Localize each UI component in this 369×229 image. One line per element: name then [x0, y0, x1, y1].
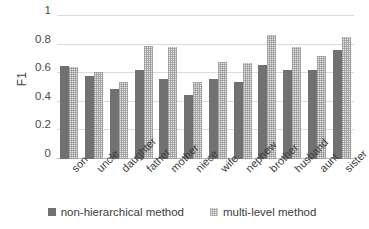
bar-group	[107, 16, 132, 159]
bar-group	[255, 16, 280, 159]
x-axis-label-cell: brother	[255, 160, 280, 205]
bar	[119, 82, 128, 159]
bar	[218, 62, 227, 159]
bar-group	[181, 16, 206, 159]
y-axis-tick-label: 0.4	[17, 90, 51, 102]
y-axis-tick-label: 0.8	[17, 33, 51, 45]
legend-item: non-hierarchical method	[48, 206, 184, 218]
chart-legend: non-hierarchical methodmulti-level metho…	[0, 206, 364, 218]
x-axis-label-cell: nephew	[230, 160, 255, 205]
bar	[85, 76, 94, 159]
bar	[333, 50, 342, 159]
bar	[342, 37, 351, 159]
bar-group	[329, 16, 354, 159]
y-axis-tick-label: 0.6	[17, 61, 51, 73]
bar-group	[82, 16, 107, 159]
x-axis-label-cell: mother	[156, 160, 181, 205]
bar-group	[206, 16, 231, 159]
plot-area: 00.20.40.60.81	[57, 16, 354, 159]
x-axis-label-cell: daughter	[107, 160, 132, 205]
x-axis-label-cell: wife	[206, 160, 231, 205]
x-axis-label-cell: son	[57, 160, 82, 205]
bar	[234, 82, 243, 159]
bar-group	[280, 16, 305, 159]
bar	[168, 47, 177, 159]
bar-group	[305, 16, 330, 159]
y-axis-tick-label: 0	[17, 147, 51, 159]
y-axis-tick-label: 1	[17, 4, 51, 16]
legend-swatch	[48, 208, 56, 216]
x-axis-label-cell: uncle	[82, 160, 107, 205]
legend-item: multi-level method	[210, 206, 316, 218]
x-axis-labels: sonuncledaughterfathermotherniecewifenep…	[57, 160, 354, 205]
y-axis-tick-label: 0.2	[17, 118, 51, 130]
x-axis-label-cell: niece	[181, 160, 206, 205]
bar	[60, 66, 69, 159]
legend-label: non-hierarchical method	[61, 206, 184, 218]
bar	[94, 72, 103, 159]
bar-group	[230, 16, 255, 159]
legend-swatch	[210, 208, 218, 216]
bar	[69, 67, 78, 159]
bar-group	[156, 16, 181, 159]
x-axis-label-cell: father	[131, 160, 156, 205]
x-axis-label-cell: husband	[280, 160, 305, 205]
legend-label: multi-level method	[223, 206, 316, 218]
bar-group	[57, 16, 82, 159]
x-axis-label-cell: aunt	[305, 160, 330, 205]
x-axis-label-cell: sister	[329, 160, 354, 205]
bar-groups	[57, 16, 354, 159]
bar	[243, 63, 252, 159]
